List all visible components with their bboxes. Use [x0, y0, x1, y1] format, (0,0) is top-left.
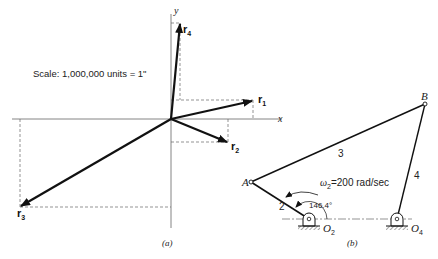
- label-r2: r2: [231, 140, 239, 154]
- joint-B: [423, 102, 427, 106]
- point-A-label: A: [241, 176, 249, 188]
- omega-label: ω2=200 rad/sec: [320, 177, 389, 190]
- pivot-O4: [386, 213, 408, 230]
- link-3-label: 3: [338, 148, 344, 159]
- vector-r3: [21, 119, 171, 206]
- label-r4: r4: [183, 23, 191, 37]
- link-4: [397, 104, 425, 219]
- label-r1: r1: [258, 93, 266, 107]
- point-B-label: B: [421, 90, 428, 102]
- projection-lines: [20, 23, 253, 207]
- link-2-label: 2: [279, 201, 285, 212]
- x-axis-label: x: [277, 113, 283, 124]
- scale-note: Scale: 1,000,000 units = 1": [33, 68, 147, 79]
- point-O4-label: O4: [411, 222, 423, 236]
- vector-r1: [171, 101, 252, 119]
- vector-r2: [171, 119, 227, 142]
- point-O2-label: O2: [323, 222, 335, 236]
- vector-diagram: y x r4 r1 r2 r3 Scale: 1,000,000 units =…: [12, 5, 283, 248]
- label-r3: r3: [17, 207, 25, 221]
- caption-b: (b): [347, 238, 358, 248]
- diagram-canvas: y x r4 r1 r2 r3 Scale: 1,000,000 units =…: [0, 0, 438, 259]
- four-bar-linkage: 146.4° ω2=200 rad/sec 2 3 4 A B O2 O4 (b…: [241, 90, 428, 248]
- caption-a: (a): [162, 238, 173, 248]
- angle-label: 146.4°: [309, 201, 332, 210]
- vector-r4: [171, 24, 180, 119]
- omega-arrow: [286, 192, 318, 197]
- y-axis-label: y: [173, 5, 179, 16]
- pivot-O2: [298, 213, 320, 230]
- link-4-label: 4: [414, 170, 420, 181]
- joint-A: [249, 180, 253, 184]
